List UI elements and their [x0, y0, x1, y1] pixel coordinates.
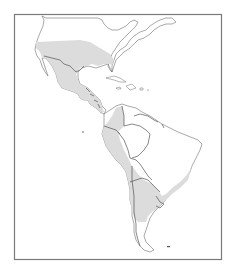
hispaniola-island	[126, 84, 136, 90]
galapagos-island-mark	[82, 131, 84, 133]
caribbean-islands	[106, 76, 149, 91]
distribution-map	[0, 0, 228, 271]
falkland-islands-mark	[167, 246, 170, 247]
cuba-island	[106, 76, 126, 82]
lesser-antilles-dot	[147, 89, 148, 90]
puerto-rico-island	[140, 88, 143, 90]
jamaica-island	[116, 87, 121, 89]
